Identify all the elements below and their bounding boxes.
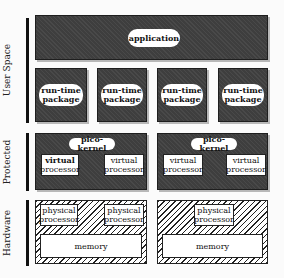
pico-kernel-1: pico-kernel virtualprocessor virtualproc… bbox=[35, 133, 147, 190]
runtime-package-4: run-timepackage bbox=[218, 68, 268, 122]
memory: memory bbox=[40, 234, 142, 258]
application-layer: application bbox=[35, 15, 268, 60]
user-space-label: User Space bbox=[2, 40, 14, 100]
hardware-node-2: physicalprocessor memory bbox=[157, 200, 268, 264]
virtual-processor: virtualprocessor bbox=[226, 154, 266, 176]
hardware-node-1: physicalprocessor physicalprocessor memo… bbox=[35, 200, 147, 264]
protected-bar bbox=[26, 133, 29, 191]
application-node: application bbox=[128, 29, 180, 47]
virtual-processor: virtualprocessor bbox=[41, 154, 79, 176]
runtime-package-2: run-timepackage bbox=[97, 68, 147, 122]
runtime-package-3: run-timepackage bbox=[157, 68, 207, 122]
user-space-bar bbox=[26, 18, 29, 123]
virtual-processor: virtualprocessor bbox=[163, 154, 203, 176]
pico-kernel-title: pico-kernel bbox=[69, 138, 115, 150]
runtime-package-label: run-timepackage bbox=[39, 84, 83, 106]
memory: memory bbox=[162, 234, 263, 258]
virtual-processor: virtualprocessor bbox=[104, 154, 144, 176]
physical-processor: physicalprocessor bbox=[40, 204, 78, 226]
runtime-package-label: run-timepackage bbox=[101, 84, 143, 106]
runtime-package-label: run-timepackage bbox=[222, 84, 264, 106]
hardware-label: Hardware bbox=[2, 203, 14, 263]
protected-label: Protected bbox=[2, 132, 14, 192]
pico-kernel-title: pico-kernel bbox=[191, 138, 237, 150]
runtime-package-label: run-timepackage bbox=[161, 84, 203, 106]
hardware-bar bbox=[26, 200, 29, 266]
physical-processor: physicalprocessor bbox=[194, 204, 234, 226]
runtime-package-1: run-timepackage bbox=[35, 68, 87, 122]
pico-kernel-2: pico-kernel virtualprocessor virtualproc… bbox=[157, 133, 268, 190]
physical-processor: physicalprocessor bbox=[104, 204, 144, 226]
